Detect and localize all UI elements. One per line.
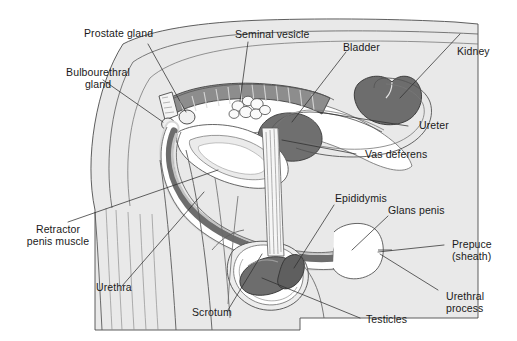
anatomy-diagram-svg [0, 0, 517, 341]
label-scrotum: Scrotum [192, 306, 232, 319]
label-prepuce-line2: (sheath) [452, 250, 491, 263]
prostate-gland [179, 110, 195, 124]
anatomy-figure: Prostate gland Bulbourethral gland Semin… [0, 0, 517, 341]
label-seminal-vesicle: Seminal vesicle [235, 28, 309, 41]
label-testicles: Testicles [366, 313, 407, 326]
seminal-vesicle-lobe-6 [260, 105, 271, 114]
label-prepuce-line1: Prepuce [452, 238, 492, 251]
label-kidney: Kidney [457, 45, 490, 58]
prostate-gland-group [179, 110, 195, 124]
label-glans-penis: Glans penis [388, 204, 445, 217]
label-urethral-process-line1: Urethral [446, 290, 484, 303]
label-vas-deferens: Vas deferens [365, 148, 427, 161]
label-epididymis: Epididymis [335, 192, 387, 205]
label-retractor-penis-muscle-line1: Retractor [10, 223, 106, 236]
label-urethra: Urethra [96, 281, 132, 294]
label-bulbourethral-gland-line2: gland [44, 78, 152, 91]
label-urethral-process-line2: process [446, 302, 483, 315]
seminal-vesicle-lobe-7 [229, 110, 239, 119]
label-retractor-penis-muscle-line2: penis muscle [10, 235, 106, 248]
label-bladder: Bladder [343, 41, 380, 54]
prepuce-fold [333, 223, 383, 278]
label-bulbourethral-gland-line1: Bulbourethral [44, 66, 152, 79]
label-prostate-gland: Prostate gland [84, 27, 153, 40]
label-ureter: Ureter [419, 119, 449, 132]
